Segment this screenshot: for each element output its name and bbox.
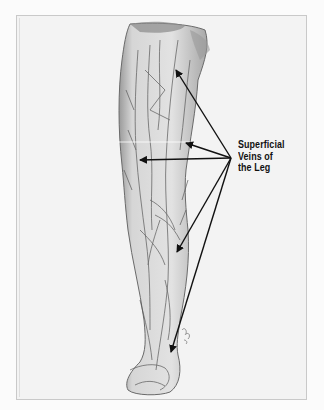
page: Superficial Veins of the Leg [0, 0, 324, 410]
arrow-thigh-lower [186, 143, 231, 158]
label-line-1: Superficial [238, 139, 285, 151]
figure-label: Superficial Veins of the Leg [238, 139, 285, 174]
label-line-3: the Leg [238, 162, 285, 174]
leg-outline [119, 22, 210, 395]
leg-illustration [0, 0, 324, 410]
artist-signature [182, 329, 189, 344]
